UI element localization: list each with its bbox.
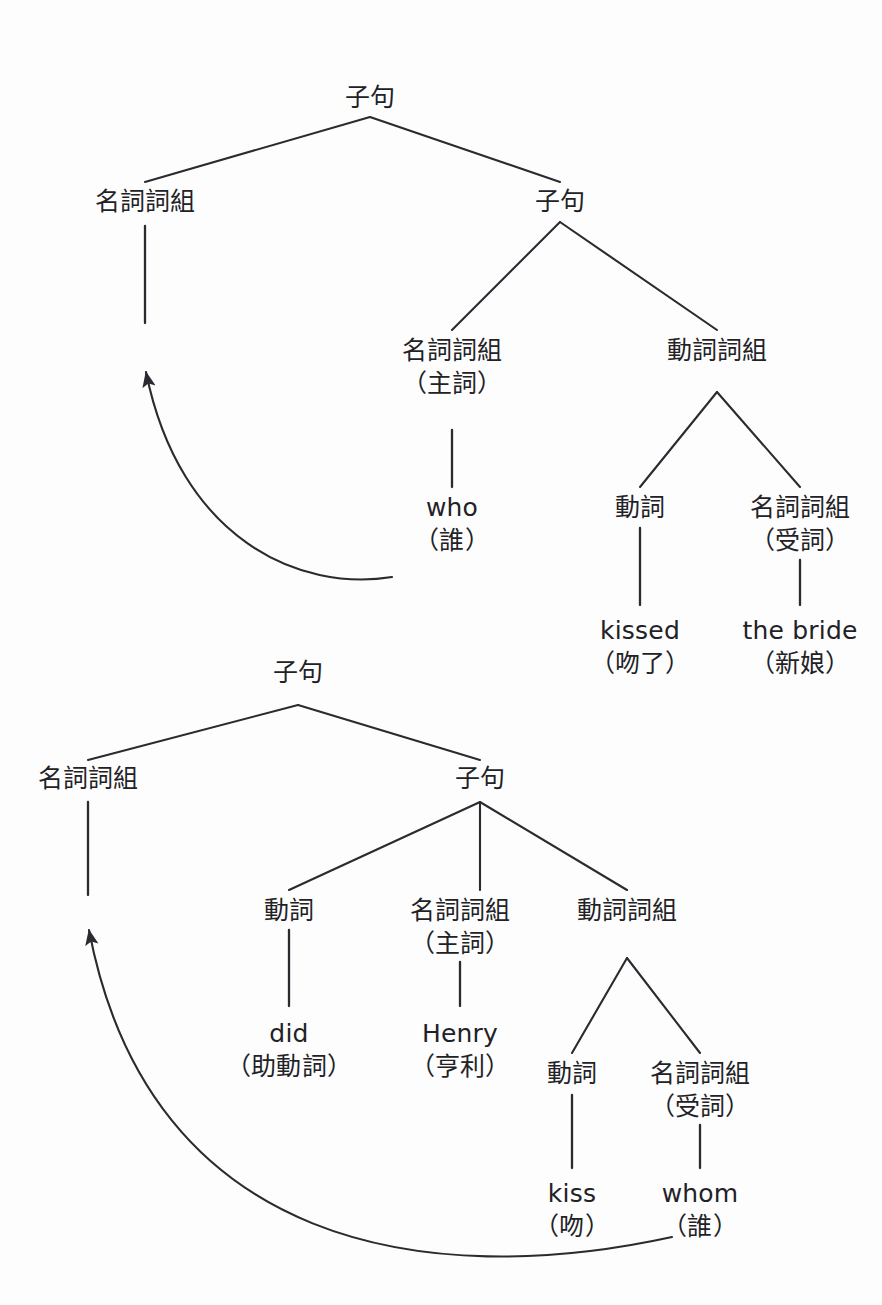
- edge2-root-to-left-np: [88, 705, 298, 760]
- tree2-leaf-kiss-word: kiss: [548, 1179, 596, 1208]
- tree2-verb-phrase: 動詞詞組: [577, 895, 678, 928]
- tree2-leaf-whom: whom （誰）: [662, 1178, 739, 1243]
- tree2-left-noun-phrase: 名詞詞組: [38, 763, 139, 796]
- tree2-inner-clause: 子句: [455, 763, 505, 796]
- tree1-leaf-the-bride-gloss: （新娘）: [742, 648, 857, 681]
- tree1-leaf-kissed-word: kissed: [600, 616, 680, 645]
- edge2-root-to-inner-clause: [298, 705, 480, 760]
- tree2-subject-np-role: （主詞）: [410, 928, 511, 961]
- tree2-leaf-did-gloss: （助動詞）: [226, 1051, 352, 1084]
- tree1-object-np-label: 名詞詞組: [750, 493, 851, 522]
- tree2-object-np-role: （受詞）: [650, 1091, 751, 1124]
- tree1-left-noun-phrase: 名詞詞組: [95, 186, 196, 219]
- tree2-leaf-whom-word: whom: [662, 1179, 739, 1208]
- tree2-object-noun-phrase: 名詞詞組 （受詞）: [650, 1058, 751, 1123]
- edge-root-to-left-np: [145, 117, 370, 182]
- tree2-leaf-henry-gloss: （亨利）: [410, 1051, 511, 1084]
- tree2-leaf-did: did （助動詞）: [226, 1018, 352, 1083]
- edge-vp-to-verb: [640, 392, 717, 487]
- edge2-clause-to-aux: [289, 802, 480, 890]
- syntax-tree-figure: 子句 名詞詞組 子句 名詞詞組 （主詞） 動詞詞組 動詞 名詞詞組 （受詞） w…: [0, 0, 882, 1305]
- edge2-vp-to-verb: [572, 958, 627, 1053]
- tree2-leaf-kiss-gloss: （吻）: [534, 1211, 610, 1244]
- tree1-leaf-the-bride-word: the bride: [742, 616, 857, 645]
- tree1-object-noun-phrase: 名詞詞組 （受詞）: [750, 492, 851, 557]
- tree2-leaf-whom-gloss: （誰）: [662, 1211, 739, 1244]
- tree2-leaf-henry-word: Henry: [422, 1019, 498, 1048]
- tree1-leaf-the-bride: the bride （新娘）: [742, 615, 857, 680]
- tree1-subject-np-role: （主詞）: [402, 368, 503, 401]
- tree1-object-np-role: （受詞）: [750, 525, 851, 558]
- edge-vp-to-object-np: [717, 392, 800, 487]
- tree2-leaf-kiss: kiss （吻）: [534, 1178, 610, 1243]
- tree1-verb: 動詞: [615, 492, 665, 525]
- tree1-leaf-kissed: kissed （吻了）: [590, 615, 691, 680]
- tree2-aux-verb: 動詞: [264, 895, 314, 928]
- tree1-verb-phrase: 動詞詞組: [667, 335, 768, 368]
- tree2-leaf-henry: Henry （亨利）: [410, 1018, 511, 1083]
- tree1-subject-np-label: 名詞詞組: [402, 336, 503, 365]
- edge-clause-to-subject-np: [452, 222, 560, 330]
- tree1-subject-noun-phrase: 名詞詞組 （主詞）: [402, 335, 503, 400]
- edge2-clause-to-vp: [480, 802, 627, 890]
- edge-clause-to-vp: [560, 222, 717, 330]
- tree1-leaf-who-gloss: （誰）: [414, 525, 490, 558]
- edge2-vp-to-object-np: [627, 958, 700, 1053]
- tree1-leaf-kissed-gloss: （吻了）: [590, 648, 691, 681]
- tree2-leaf-did-word: did: [269, 1019, 308, 1048]
- edge-root-to-inner-clause: [370, 117, 560, 182]
- movement-arrow-who: [146, 372, 392, 579]
- tree2-subject-np-label: 名詞詞組: [410, 896, 511, 925]
- tree2-root-clause: 子句: [273, 657, 323, 690]
- tree1-leaf-who: who （誰）: [414, 492, 490, 557]
- tree2-object-np-label: 名詞詞組: [650, 1059, 751, 1088]
- tree-2-edges: [88, 705, 700, 1257]
- tree2-subject-noun-phrase: 名詞詞組 （主詞）: [410, 895, 511, 960]
- tree2-verb: 動詞: [547, 1058, 597, 1091]
- tree1-leaf-who-word: who: [426, 493, 478, 522]
- tree1-root-clause: 子句: [345, 82, 395, 115]
- tree1-inner-clause: 子句: [535, 186, 585, 219]
